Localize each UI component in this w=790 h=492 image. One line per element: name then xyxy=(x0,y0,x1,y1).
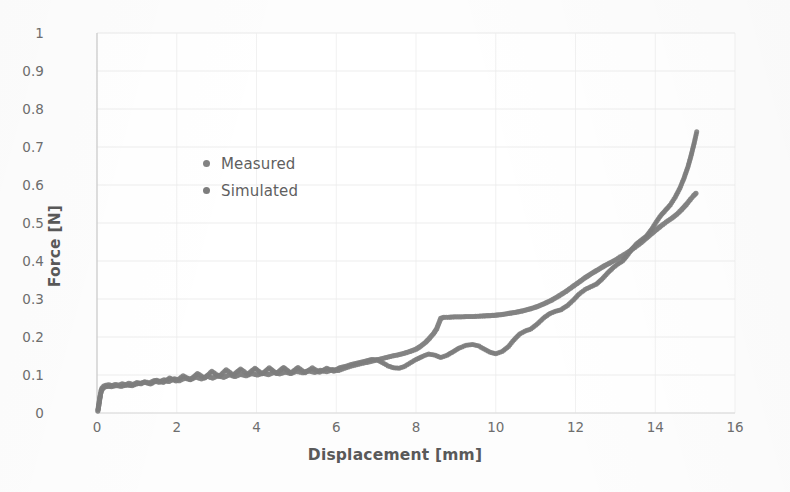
x-axis-tick-label: 8 xyxy=(396,419,436,435)
y-axis-tick-label: 0.8 xyxy=(4,101,44,117)
legend-item-simulated[interactable]: Simulated xyxy=(203,177,298,204)
series-measured xyxy=(95,191,698,414)
y-axis-title: Force [N] xyxy=(46,205,64,287)
legend: MeasuredSimulated xyxy=(203,150,298,204)
y-axis-tick-label: 0.9 xyxy=(4,63,44,79)
legend-marker-icon xyxy=(203,187,210,194)
legend-item-measured[interactable]: Measured xyxy=(203,150,298,177)
y-axis-tick-label: 0.2 xyxy=(4,329,44,345)
x-axis-title: Displacement [mm] xyxy=(0,446,790,464)
x-axis-tick-label: 4 xyxy=(237,419,277,435)
legend-item-label: Measured xyxy=(221,155,295,173)
y-axis-tick-label: 0.6 xyxy=(4,177,44,193)
x-axis-tick-label: 6 xyxy=(316,419,356,435)
x-axis-tick-label: 2 xyxy=(157,419,197,435)
y-axis-tick-label: 0.3 xyxy=(4,291,44,307)
x-axis-tick-label: 14 xyxy=(635,419,675,435)
data-series-layer xyxy=(97,33,735,413)
y-axis-tick-label: 0.5 xyxy=(4,215,44,231)
y-axis-tick-label: 1 xyxy=(4,25,44,41)
plot-area xyxy=(97,33,735,413)
series-simulated xyxy=(96,129,700,411)
x-axis-tick-label: 16 xyxy=(715,419,755,435)
y-axis-tick-label: 0 xyxy=(4,405,44,421)
legend-item-label: Simulated xyxy=(221,182,298,200)
y-axis-tick-label: 0.1 xyxy=(4,367,44,383)
y-axis-tick-label: 0.4 xyxy=(4,253,44,269)
legend-marker-icon xyxy=(203,160,210,167)
x-axis-tick-label: 10 xyxy=(476,419,516,435)
x-axis-tick-label: 12 xyxy=(556,419,596,435)
chart-container: 00.10.20.30.40.50.60.70.80.91 0246810121… xyxy=(0,0,790,492)
y-axis-tick-label: 0.7 xyxy=(4,139,44,155)
x-axis-tick-label: 0 xyxy=(77,419,117,435)
